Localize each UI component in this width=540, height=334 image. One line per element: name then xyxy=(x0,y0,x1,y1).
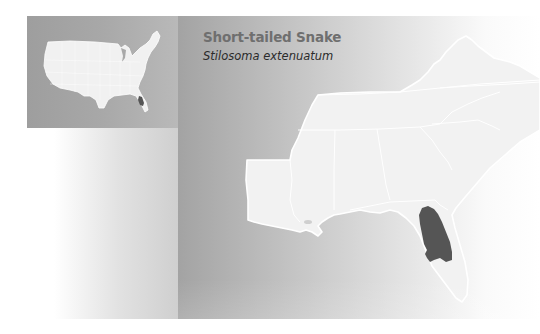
lake-pontchartrain xyxy=(304,220,312,224)
species-common-name: Short-tailed Snake xyxy=(203,28,341,46)
main-map-panel: Short-tailed Snake Stilosoma extenuatum xyxy=(178,16,540,319)
species-scientific-name: Stilosoma extenuatum xyxy=(203,48,341,64)
us-overview-map xyxy=(27,16,178,128)
inset-shadow-gradient xyxy=(27,127,178,319)
title-block: Short-tailed Snake Stilosoma extenuatum xyxy=(203,28,341,64)
inset-map-panel xyxy=(27,16,178,128)
southeast-land xyxy=(246,36,540,302)
